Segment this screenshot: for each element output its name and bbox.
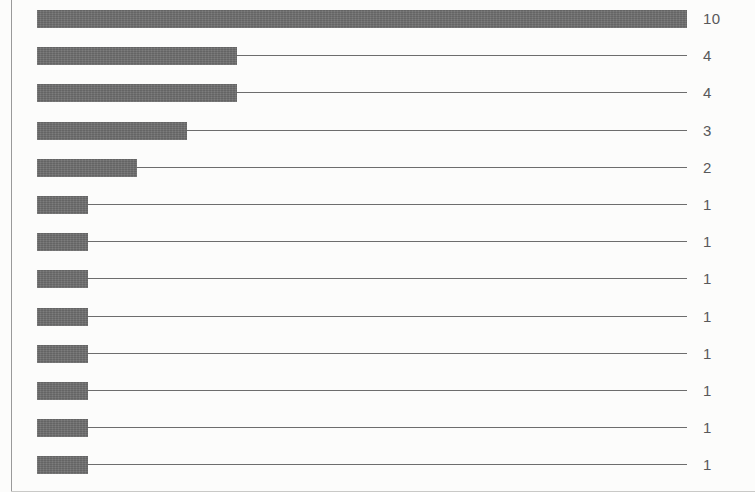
leader-line [88,204,687,205]
bar-row: 10 [0,10,755,28]
bar [37,233,88,251]
leader-line [187,130,687,131]
bar [37,382,88,400]
bar-value-label: 1 [703,231,712,253]
leader-line [237,55,687,56]
bar-row: 1 [0,456,755,474]
bar [37,196,88,214]
bar [37,308,88,326]
horizontal-bar-chart: 10443211111111 [0,0,755,492]
bar-value-label: 1 [703,343,712,365]
bar-value-label: 4 [703,82,712,104]
bar-row: 1 [0,233,755,251]
bar [37,122,187,140]
bar [37,47,237,65]
bar-value-label: 4 [703,45,712,67]
bar-row: 1 [0,270,755,288]
bar-row: 4 [0,47,755,65]
leader-line [88,390,687,391]
bar [37,270,88,288]
bar-value-label: 1 [703,268,712,290]
bar-value-label: 1 [703,306,712,328]
leader-line [88,464,687,465]
leader-line [88,278,687,279]
bar-value-label: 2 [703,157,712,179]
bar-value-label: 1 [703,417,712,439]
bar-row: 3 [0,122,755,140]
bar-rows-container: 10443211111111 [0,0,755,492]
bar [37,84,237,102]
bar-row: 1 [0,308,755,326]
bar-value-label: 3 [703,120,712,142]
leader-line [88,427,687,428]
bar-value-label: 1 [703,454,712,476]
leader-line [88,316,687,317]
bar [37,159,137,177]
bar-row: 1 [0,196,755,214]
leader-line [137,167,687,168]
bar-value-label: 10 [703,8,721,30]
leader-line [88,241,687,242]
bar-row: 4 [0,84,755,102]
bar-row: 1 [0,382,755,400]
bar [37,419,88,437]
bar [37,456,88,474]
leader-line [237,92,687,93]
bar-row: 1 [0,345,755,363]
bar-value-label: 1 [703,194,712,216]
bar-row: 2 [0,159,755,177]
leader-line [88,353,687,354]
bar [37,10,687,28]
bar [37,345,88,363]
bar-value-label: 1 [703,380,712,402]
bar-row: 1 [0,419,755,437]
